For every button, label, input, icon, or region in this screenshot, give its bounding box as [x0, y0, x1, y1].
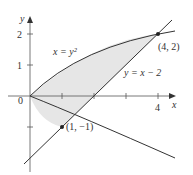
point-4-2	[156, 32, 160, 36]
diagram-canvas: y x 0 2 1 4 x = y² y = x − 2 (4, 2) (1, …	[0, 0, 193, 175]
point-1-neg1	[60, 125, 64, 129]
y-axis-arrow-icon	[27, 16, 33, 23]
line-label: y = x − 2	[123, 67, 161, 78]
origin-label: 0	[18, 95, 23, 106]
y-axis-label: y	[19, 13, 25, 24]
point-1-neg1-label: (1, −1)	[66, 121, 93, 133]
y-tick-label-2: 2	[17, 29, 22, 40]
y-tick-label-1: 1	[17, 60, 22, 71]
point-4-2-label: (4, 2)	[158, 41, 180, 53]
x-tick-label-4: 4	[155, 102, 160, 113]
x-axis-label: x	[171, 99, 177, 110]
parabola-label: x = y²	[52, 46, 78, 57]
shaded-region	[30, 34, 158, 127]
